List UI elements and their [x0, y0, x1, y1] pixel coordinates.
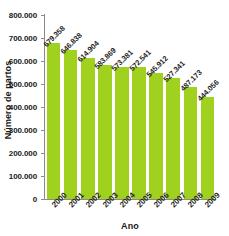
- y-axis-tick-mark: [41, 176, 44, 177]
- bar[interactable]: [166, 78, 180, 199]
- y-axis-tick-mark: [41, 84, 44, 85]
- y-axis-tick-label: 500.000: [9, 80, 37, 89]
- y-axis-tick-mark: [41, 61, 44, 62]
- bar[interactable]: [132, 67, 146, 199]
- y-axis-tick-label: 300.000: [9, 126, 37, 135]
- bar[interactable]: [98, 65, 112, 199]
- y-axis-tick-label: 700.000: [9, 34, 37, 43]
- y-axis-tick-mark: [41, 15, 44, 16]
- bar[interactable]: [149, 73, 163, 199]
- bar[interactable]: [184, 87, 198, 199]
- bar[interactable]: [47, 43, 61, 199]
- y-axis-tick-label: 0: [33, 195, 37, 204]
- y-axis-tick-mark: [41, 107, 44, 108]
- bar[interactable]: [81, 58, 95, 199]
- bar[interactable]: [64, 50, 78, 199]
- y-axis-tick-label: 400.000: [9, 103, 37, 112]
- x-axis-title: Ano: [44, 221, 216, 231]
- y-axis-tick-label: 600.000: [9, 57, 37, 66]
- y-axis-tick-label: 200.000: [9, 149, 37, 158]
- y-axis-tick-mark: [41, 130, 44, 131]
- bar-chart: Número de partos 0100.000200.000300.0004…: [0, 0, 229, 236]
- y-axis-tick-mark: [41, 153, 44, 154]
- bar[interactable]: [115, 67, 129, 199]
- bar[interactable]: [201, 97, 215, 199]
- y-axis-tick-label: 100.000: [9, 172, 37, 181]
- y-axis-tick-labels: 0100.000200.000300.000400.000500.000600.…: [0, 0, 41, 236]
- y-axis-tick-label: 800.000: [9, 11, 37, 20]
- y-axis-tick-mark: [41, 199, 44, 200]
